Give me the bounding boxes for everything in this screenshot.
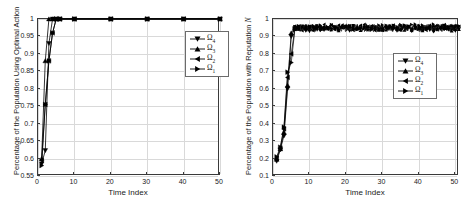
x-tick [110, 172, 111, 175]
y-tick [37, 35, 40, 36]
y-tick [37, 175, 40, 176]
legend-marker-triangle-up-icon [397, 66, 414, 76]
y-tick [272, 88, 275, 89]
y-tick [37, 88, 40, 89]
legend-marker-triangle-left-icon [397, 76, 414, 86]
y-tick [37, 105, 40, 106]
x-tick-label: 50 [450, 178, 458, 185]
y-tick [272, 70, 275, 71]
y-tick [37, 18, 40, 19]
legend-marker-triangle-up-icon [189, 44, 206, 54]
legend-marker-triangle-right-icon [189, 64, 206, 74]
y-tick [37, 140, 40, 141]
data-marker [285, 83, 290, 87]
legend: Ω4Ω3Ω2Ω1 [393, 53, 437, 99]
x-tick-label: 30 [142, 178, 150, 185]
y-tick [272, 123, 275, 124]
x-tick-label: 0 [35, 178, 39, 185]
y-tick [37, 158, 40, 159]
figure-container: 010203040500.550.60.650.70.750.80.850.90… [0, 0, 468, 212]
legend-label: Ω1 [415, 86, 423, 96]
y-tick [272, 18, 275, 19]
data-marker [43, 149, 48, 153]
x-tick [219, 172, 220, 175]
x-tick [183, 172, 184, 175]
y-tick [272, 53, 275, 54]
right-panel: 010203040500.10.20.30.40.50.60.70.80.91T… [234, 0, 468, 212]
x-tick [146, 172, 147, 175]
x-tick-label: 20 [341, 178, 349, 185]
grid-line-horizontal [38, 176, 218, 177]
y-tick [37, 123, 40, 124]
x-tick-label: 40 [414, 178, 422, 185]
x-tick [381, 172, 382, 175]
x-tick-label: 40 [179, 178, 187, 185]
legend-label: Ω1 [207, 64, 215, 74]
legend-marker-triangle-down-icon [189, 34, 206, 44]
y-axis-label: Percentage of the Population with Reputa… [244, 17, 253, 175]
x-tick [308, 172, 309, 175]
y-tick [272, 35, 275, 36]
x-tick [454, 172, 455, 175]
legend-marker-triangle-left-icon [189, 54, 206, 64]
y-axis-label: Percentage of the Population Using Optim… [12, 7, 21, 175]
legend-item[interactable]: Ω1 [397, 86, 433, 96]
legend-item[interactable]: Ω1 [189, 64, 225, 74]
x-tick-label: 50 [215, 178, 223, 185]
y-tick [272, 158, 275, 159]
x-tick-label: 0 [270, 178, 274, 185]
x-axis-label: Time Index [345, 188, 384, 197]
x-tick [345, 172, 346, 175]
x-tick-label: 20 [106, 178, 114, 185]
x-tick [73, 172, 74, 175]
x-tick-label: 10 [305, 178, 313, 185]
grid-line-horizontal [273, 176, 457, 177]
y-tick [272, 105, 275, 106]
x-axis-label: Time Index [108, 188, 147, 197]
y-tick [272, 175, 275, 176]
legend: Ω4Ω3Ω2Ω1 [185, 31, 229, 77]
legend-marker-triangle-right-icon [397, 86, 414, 96]
x-tick-label: 30 [378, 178, 386, 185]
y-tick [37, 70, 40, 71]
left-panel: 010203040500.550.60.650.70.750.80.850.90… [0, 0, 234, 212]
x-tick-label: 10 [69, 178, 77, 185]
legend-marker-triangle-down-icon [397, 56, 414, 66]
y-tick [272, 140, 275, 141]
x-tick [418, 172, 419, 175]
y-tick [37, 53, 40, 54]
